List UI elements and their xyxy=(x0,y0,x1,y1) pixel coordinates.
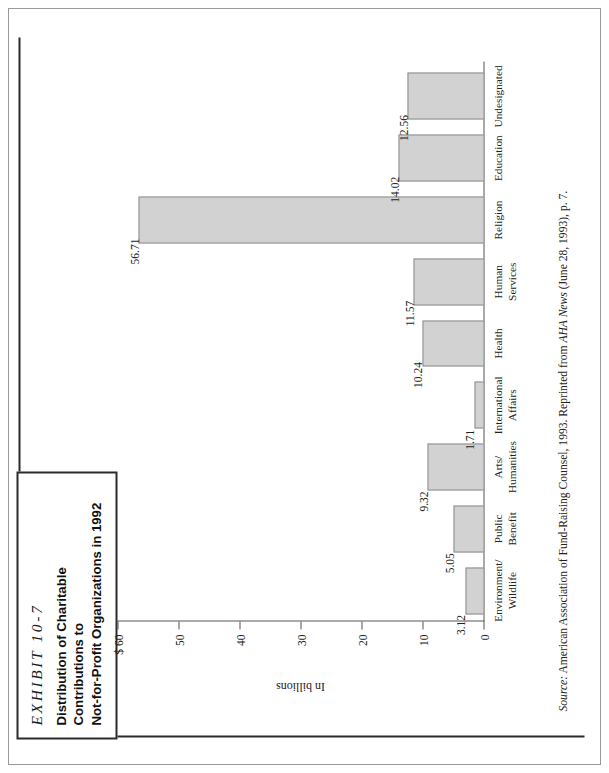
source-text-before: American Association of Fund-Raising Cou… xyxy=(556,342,569,675)
plot-area: 3.12Environment/Wildlife5.05PublicBenefi… xyxy=(118,65,484,621)
bar-value-label: 9.32 xyxy=(418,491,430,511)
category-label-line: Health xyxy=(491,328,505,358)
value-axis-tick-label: 0 xyxy=(478,634,490,640)
bar xyxy=(474,381,484,428)
value-axis-tick-label: 20 xyxy=(356,634,368,646)
category-label: Arts/Humanities xyxy=(491,441,518,493)
value-axis-tick: 40 xyxy=(239,621,240,629)
exhibit-title-line-1: Distribution of Charitable Contributions… xyxy=(52,485,87,725)
bar-value-label: 3.12 xyxy=(455,614,467,634)
bar-value-label: 12.56 xyxy=(398,115,410,141)
category-label-line: International xyxy=(491,376,505,434)
bar-chart: $ 6050403020100 In billions 3.12Environm… xyxy=(108,53,538,713)
value-axis-tick-label: 50 xyxy=(173,634,185,646)
category-label-line: Humanities xyxy=(505,441,519,493)
bar-value-label: 10.24 xyxy=(412,362,424,388)
bar xyxy=(422,320,484,367)
bar xyxy=(427,443,484,490)
value-axis-tick: $ 60 xyxy=(117,621,118,629)
category-label: PublicBenefit xyxy=(491,512,518,545)
value-axis-tick: 10 xyxy=(422,621,423,629)
category-label-line: Public xyxy=(491,512,505,545)
bar xyxy=(407,72,484,119)
bar-value-label: 5.05 xyxy=(444,553,456,573)
source-text-after: (June 28, 1993), p. 7. xyxy=(556,190,569,291)
category-label-line: Environment/ xyxy=(491,559,505,621)
bar-value-label: 56.71 xyxy=(129,238,141,264)
category-label-line: Education xyxy=(491,135,505,181)
source-note: Source: American Association of Fund-Rai… xyxy=(556,41,569,711)
value-axis-tick: 20 xyxy=(361,621,362,629)
value-axis-tick: 30 xyxy=(300,621,301,629)
value-axis-title: In billions xyxy=(116,677,484,695)
exhibit-number: EXHIBIT 10-7 xyxy=(27,485,45,725)
category-label-line: Undesignated xyxy=(491,65,505,127)
bar-value-label: 14.02 xyxy=(389,176,401,202)
exhibit-title-line-2: Not-for-Profit Organizations in 1992 xyxy=(87,485,104,725)
value-axis-tick: 50 xyxy=(178,621,179,629)
category-label: Education xyxy=(491,135,505,181)
bar xyxy=(453,505,484,552)
page-title: Distribution of Charitable Contributions… xyxy=(52,485,104,725)
bar xyxy=(398,134,484,181)
category-label-line: Human xyxy=(491,262,505,300)
category-label: Undesignated xyxy=(491,65,505,127)
category-label: HumanServices xyxy=(491,262,518,300)
category-label-line: Wildlife xyxy=(505,559,519,621)
exhibit-title-block: EXHIBIT 10-7 Distribution of Charitable … xyxy=(16,471,117,739)
value-axis-tick-label: $ 60 xyxy=(112,634,124,654)
bar-value-label: 1.71 xyxy=(464,429,476,449)
category-label-line: Services xyxy=(505,262,519,300)
category-label: Health xyxy=(491,328,505,358)
category-label-line: Religion xyxy=(491,200,505,239)
value-axis-tick-label: 30 xyxy=(295,634,307,646)
bar xyxy=(138,196,484,243)
source-publication: AHA News xyxy=(556,292,569,342)
value-axis-title-label: In billions xyxy=(275,679,324,694)
source-label: Source: xyxy=(556,675,569,711)
category-label-line: Affairs xyxy=(505,376,519,434)
bar-value-label: 11.57 xyxy=(404,300,416,325)
value-axis-tick-label: 40 xyxy=(234,634,246,646)
bar xyxy=(465,567,484,614)
category-label-line: Benefit xyxy=(505,512,519,545)
value-axis-tick: 0 xyxy=(483,621,484,629)
exhibit-canvas: EXHIBIT 10-7 Distribution of Charitable … xyxy=(0,0,609,773)
value-axis-tick-label: 10 xyxy=(417,634,429,646)
bar xyxy=(413,258,484,305)
category-label: Environment/Wildlife xyxy=(491,559,518,621)
category-label-line: Arts/ xyxy=(491,441,505,493)
category-label: InternationalAffairs xyxy=(491,376,518,434)
category-label: Religion xyxy=(491,200,505,239)
